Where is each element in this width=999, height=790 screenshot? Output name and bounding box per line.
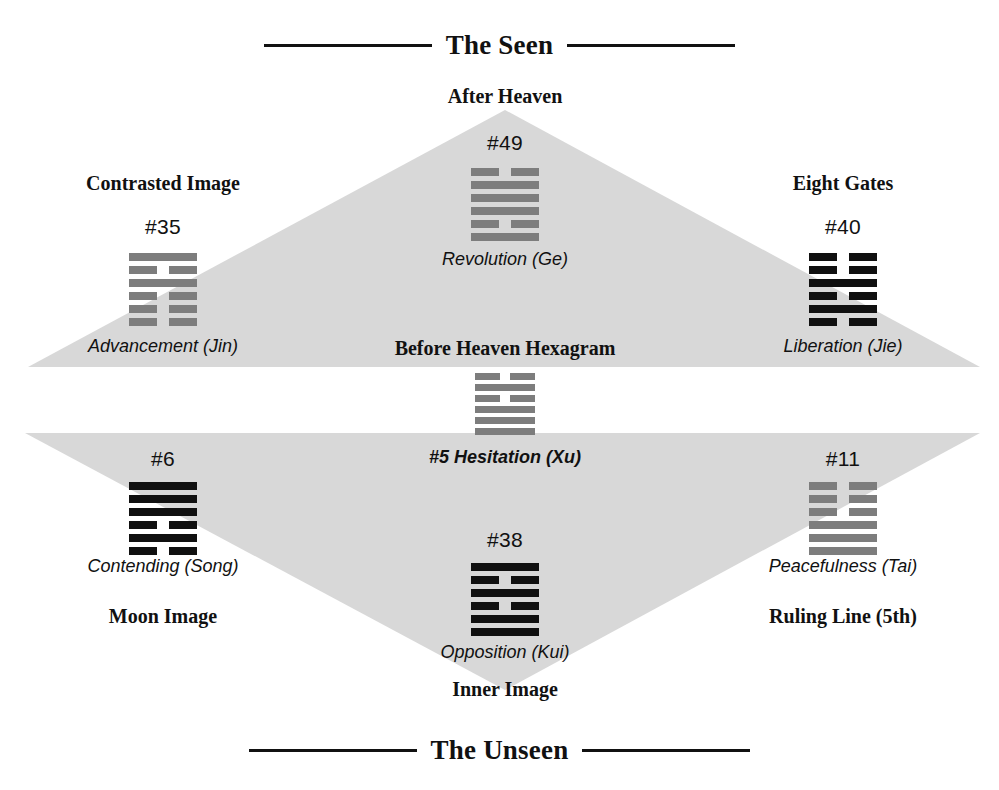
seen-title: The Seen xyxy=(446,30,553,61)
hexagram-line-4 xyxy=(471,194,539,202)
hexagram-line-2 xyxy=(809,305,877,313)
caption-eight-gates: Liberation (Jie) xyxy=(783,337,902,357)
yin-segment-left xyxy=(129,292,157,300)
hexagram-line-2 xyxy=(475,417,535,424)
hexagram-11 xyxy=(809,482,877,555)
hexagram-line-2 xyxy=(471,615,539,623)
hexagram-line-3 xyxy=(809,292,877,300)
yin-segment-right xyxy=(511,602,539,610)
yang-segment xyxy=(129,508,197,516)
hexagram-line-5 xyxy=(475,384,535,391)
hexagram-line-2 xyxy=(471,220,539,228)
yin-segment-left xyxy=(809,253,837,261)
hexagram-line-5 xyxy=(471,181,539,189)
hexagram-line-1 xyxy=(471,233,539,241)
hexagram-line-6 xyxy=(471,563,539,571)
hexagram-line-3 xyxy=(471,602,539,610)
hexagram-line-1 xyxy=(809,547,877,555)
yang-segment xyxy=(471,207,539,215)
yin-segment-left xyxy=(471,602,499,610)
yang-segment xyxy=(129,482,197,490)
yin-segment-left xyxy=(809,266,837,274)
banner-rule-right xyxy=(567,44,735,47)
yang-segment xyxy=(129,495,197,503)
yin-segment-right xyxy=(511,576,539,584)
yin-segment-left xyxy=(809,495,837,503)
hexagram-line-6 xyxy=(129,482,197,490)
heading-contrasted-image: Contrasted Image xyxy=(86,172,240,194)
number-ruling-line: #11 xyxy=(826,447,860,470)
hexagram-line-6 xyxy=(809,482,877,490)
yang-segment xyxy=(471,615,539,623)
yin-segment-left xyxy=(809,318,837,326)
yang-segment xyxy=(809,521,877,529)
hexagram-line-4 xyxy=(809,279,877,287)
yin-segment-left xyxy=(129,318,157,326)
hexagram-38 xyxy=(471,563,539,636)
hexagram-line-6 xyxy=(475,373,535,380)
hexagram-line-3 xyxy=(471,207,539,215)
yang-segment xyxy=(475,417,535,424)
yin-segment-right xyxy=(849,318,877,326)
yin-segment-left xyxy=(475,373,500,380)
yang-segment xyxy=(471,628,539,636)
hexagram-line-4 xyxy=(809,508,877,516)
hexagram-line-6 xyxy=(129,253,197,261)
banner-rule-left xyxy=(264,44,432,47)
number-moon-image: #6 xyxy=(151,447,175,470)
hexagram-line-5 xyxy=(129,495,197,503)
yin-segment-right xyxy=(169,305,197,313)
banner-rule-left xyxy=(249,749,417,752)
yin-segment-right xyxy=(169,547,197,555)
hexagram-line-1 xyxy=(809,318,877,326)
yin-segment-right xyxy=(849,482,877,490)
hexagram-line-4 xyxy=(129,279,197,287)
yin-segment-left xyxy=(809,508,837,516)
yin-segment-left xyxy=(475,395,500,402)
yin-segment-right xyxy=(169,521,197,529)
heading-inner-image: Inner Image xyxy=(452,678,558,700)
yang-segment xyxy=(471,563,539,571)
hexagram-line-4 xyxy=(475,395,535,402)
hexagram-line-1 xyxy=(475,428,535,435)
heading-moon-image: Moon Image xyxy=(109,605,217,627)
diagram-canvas: The Seen The Unseen After Heaven #49 Rev… xyxy=(0,0,999,790)
yin-segment-left xyxy=(129,547,157,555)
yin-segment-right xyxy=(510,373,535,380)
yin-segment-left xyxy=(129,305,157,313)
yin-segment-left xyxy=(129,521,157,529)
heading-eight-gates: Eight Gates xyxy=(793,172,894,194)
number-after-heaven: #49 xyxy=(487,131,523,154)
caption-after-heaven: Revolution (Ge) xyxy=(442,250,568,270)
yin-segment-left xyxy=(471,220,499,228)
yin-segment-left xyxy=(471,168,499,176)
yin-segment-left xyxy=(809,292,837,300)
yang-segment xyxy=(475,384,535,391)
center-caption: #5 Hesitation (Xu) xyxy=(429,448,581,468)
yang-segment xyxy=(471,233,539,241)
yang-segment xyxy=(471,589,539,597)
number-eight-gates: #40 xyxy=(825,215,861,238)
hexagram-line-3 xyxy=(129,521,197,529)
yin-segment-right xyxy=(169,292,197,300)
yin-segment-right xyxy=(511,168,539,176)
hexagram-line-1 xyxy=(471,628,539,636)
yang-segment xyxy=(809,547,877,555)
unseen-title: The Unseen xyxy=(431,735,569,766)
hexagram-line-4 xyxy=(129,508,197,516)
caption-moon-image: Contending (Song) xyxy=(87,557,238,577)
hexagram-6 xyxy=(129,482,197,555)
seen-banner: The Seen xyxy=(0,30,999,61)
hexagram-line-2 xyxy=(809,534,877,542)
yin-segment-left xyxy=(129,266,157,274)
yang-segment xyxy=(475,428,535,435)
hexagram-line-2 xyxy=(129,305,197,313)
yang-segment xyxy=(471,194,539,202)
hexagram-35 xyxy=(129,253,197,326)
yin-segment-right xyxy=(169,318,197,326)
hexagram-line-5 xyxy=(129,266,197,274)
yang-segment xyxy=(129,534,197,542)
unseen-banner: The Unseen xyxy=(0,735,999,766)
yin-segment-right xyxy=(511,220,539,228)
hexagram-line-5 xyxy=(809,266,877,274)
